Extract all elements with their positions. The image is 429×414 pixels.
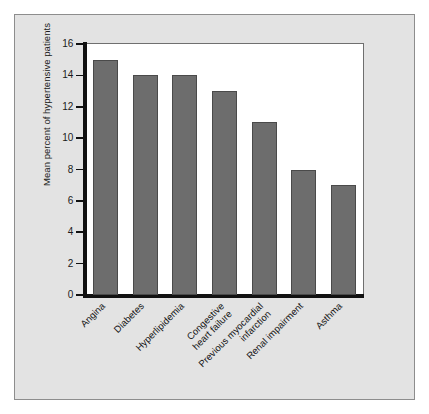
y-axis-tick (76, 200, 83, 202)
y-axis-tick-label: 2 (55, 259, 73, 269)
y-axis-tick-label: 8 (55, 165, 73, 175)
y-axis-tick (76, 169, 83, 171)
y-axis-tick (76, 106, 83, 108)
plot-right-border (363, 43, 364, 295)
y-axis-title: Mean percent of hypertensive patients (41, 20, 52, 190)
chart-panel: 0246810121416 AnginaDiabetesHyperlipidem… (14, 14, 415, 400)
bar (172, 75, 197, 295)
bar (252, 122, 277, 295)
bar (212, 91, 237, 295)
y-axis-tick (76, 137, 83, 139)
y-axis-tick-label: 4 (55, 227, 73, 237)
plot-top-border (86, 43, 364, 44)
bar (133, 75, 158, 295)
bar (93, 60, 118, 295)
chart-figure: 0246810121416 AnginaDiabetesHyperlipidem… (0, 0, 429, 414)
y-axis-tick-label: 12 (55, 102, 73, 112)
y-axis-line (83, 42, 87, 298)
y-axis-tick (76, 294, 83, 296)
bar (291, 170, 316, 296)
y-axis-tick (76, 43, 83, 45)
y-axis-tick-label: 14 (55, 70, 73, 80)
y-axis-tick-label: 0 (55, 290, 73, 300)
y-axis-tick (76, 75, 83, 77)
y-axis-tick-label: 16 (55, 39, 73, 49)
y-axis-tick (76, 263, 83, 265)
y-axis-tick (76, 231, 83, 233)
bar (331, 185, 356, 295)
y-axis-tick-label: 10 (55, 133, 73, 143)
y-axis-tick-label: 6 (55, 196, 73, 206)
